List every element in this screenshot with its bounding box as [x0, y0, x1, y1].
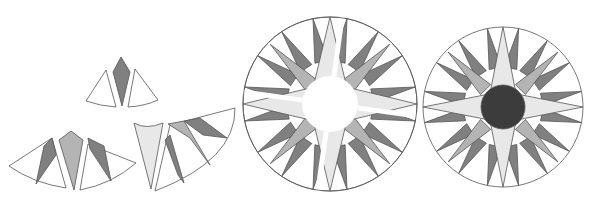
assembled-quarters	[242, 16, 418, 192]
quarter-unit	[134, 108, 235, 191]
single-point-unit	[86, 57, 158, 107]
center-circle	[481, 85, 525, 129]
joined-point-units	[9, 131, 136, 190]
finished-compass	[423, 27, 583, 187]
compass-diagram	[0, 0, 592, 203]
small-point	[113, 57, 130, 106]
